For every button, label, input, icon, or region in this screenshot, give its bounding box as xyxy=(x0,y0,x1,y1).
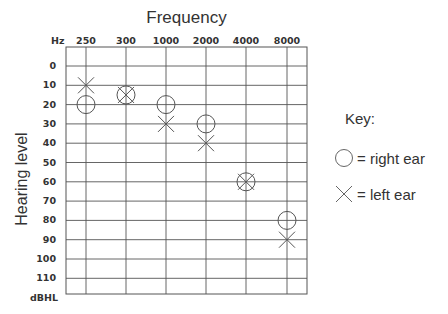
grid-frame xyxy=(66,47,307,294)
legend-label: = right ear xyxy=(357,150,425,167)
legend-label: = left ear xyxy=(357,186,416,203)
circle-marker-icon xyxy=(334,148,354,168)
legend-item-left-ear: = left ear xyxy=(334,184,416,204)
x-marker-icon xyxy=(334,184,354,204)
legend-title: Key: xyxy=(345,110,375,127)
legend-item-right-ear: = right ear xyxy=(334,148,425,168)
